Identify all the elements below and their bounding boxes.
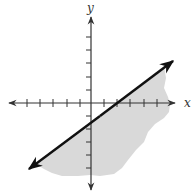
y-axis-label: y <box>86 1 94 15</box>
shaded-region <box>36 66 170 176</box>
inequality-graph: y x <box>0 0 193 194</box>
x-axis-label: x <box>184 96 191 110</box>
